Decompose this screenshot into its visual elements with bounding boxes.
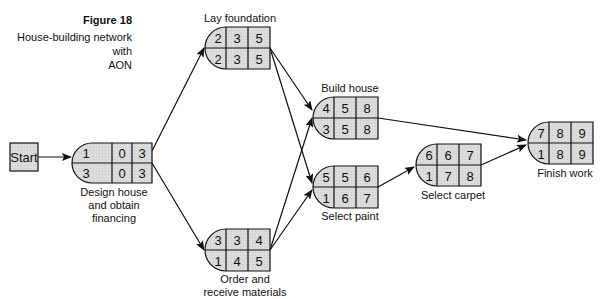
paint-ef: 6 [363,170,370,185]
foundation-ls: 2 [214,52,221,67]
paint-duration: 5 [341,170,348,185]
node-carpet: 6 6 7 1 7 8 [416,144,481,186]
build-slack: 5 [341,122,348,137]
foundation-slack: 3 [233,52,240,67]
carpet-label: Select carpet [415,189,491,202]
materials-ls: 1 [214,254,221,269]
design-duration: 0 [118,146,125,161]
materials-label: Order and receive materials [195,273,295,299]
build-label: Build house [315,82,385,95]
start-label: Start [10,150,38,165]
paint-ls: 1 [322,191,329,206]
paint-es: 5 [322,170,329,185]
edge-design-materials [152,163,204,250]
paint-lf: 7 [363,191,370,206]
paint-label: Select paint [315,210,385,223]
finish-duration: 8 [556,126,563,141]
design-lf: 3 [138,166,145,181]
edge-materials-paint [270,190,312,250]
node-design: 1 0 3 3 0 3 [72,143,152,183]
materials-slack: 4 [233,254,240,269]
carpet-ef: 7 [466,148,473,163]
finish-ef: 9 [578,126,585,141]
finish-es: 7 [537,126,544,141]
foundation-label: Lay foundation [200,12,280,25]
build-es: 4 [322,101,329,116]
design-ef: 3 [138,146,145,161]
build-duration: 5 [341,101,348,116]
node-paint: 5 5 6 1 6 7 [313,166,378,208]
design-label-line-2: and obtain [72,199,156,212]
node-build: 4 5 8 3 5 8 [313,97,378,139]
design-slack: 0 [118,166,125,181]
foundation-es: 2 [214,31,221,46]
edge-paint-carpet [378,167,414,187]
materials-lf: 5 [255,254,262,269]
edge-foundation-paint [270,48,312,183]
edge-foundation-build [270,48,312,110]
build-lf: 8 [363,122,370,137]
edge-build-finish [378,118,526,140]
node-foundation: 2 3 5 2 3 5 [205,27,270,69]
carpet-ls: 1 [425,169,432,184]
materials-es: 3 [214,233,221,248]
foundation-lf: 5 [255,52,262,67]
design-es: 1 [82,146,89,161]
foundation-duration: 3 [233,31,240,46]
finish-ls: 1 [537,147,544,162]
carpet-es: 6 [425,148,432,163]
design-label-line-3: financing [72,212,156,225]
node-finish: 7 8 9 1 8 9 [528,122,593,164]
finish-slack: 8 [556,147,563,162]
node-materials: 3 3 4 1 4 5 [205,229,270,271]
foundation-ef: 5 [255,31,262,46]
build-ef: 8 [363,101,370,116]
finish-label: Finish work [530,167,600,180]
edge-carpet-finish [481,145,526,165]
finish-lf: 9 [578,147,585,162]
design-label-line-1: Design house [72,186,156,199]
carpet-duration: 6 [444,148,451,163]
carpet-slack: 7 [444,169,451,184]
build-ls: 3 [322,122,329,137]
edge-design-foundation [152,48,204,151]
materials-label-line-2: receive materials [195,286,295,299]
materials-ef: 4 [255,233,262,248]
paint-slack: 6 [341,191,348,206]
materials-label-line-1: Order and [195,273,295,286]
materials-duration: 3 [233,233,240,248]
edge-materials-build [270,118,312,250]
carpet-lf: 8 [466,169,473,184]
start-node: Start [10,143,38,171]
design-ls: 3 [82,166,89,181]
design-label: Design house and obtain financing [72,186,156,225]
